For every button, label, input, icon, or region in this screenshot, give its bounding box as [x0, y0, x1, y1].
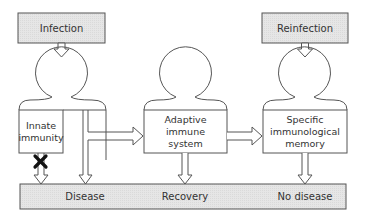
adaptive-figure — [144, 47, 227, 110]
reinfection-arrow-icon — [298, 43, 313, 57]
memory-label-line1: Specific — [287, 114, 324, 125]
memory-label-line3: memory — [285, 138, 325, 149]
specific-immunological-memory-box: Specific immunological memory — [263, 110, 347, 153]
adaptive-label-line2: immune — [166, 126, 205, 137]
outcome-bar: Disease Recovery No disease — [20, 184, 346, 209]
outcome-recovery: Recovery — [162, 191, 208, 202]
innate-label-line1: Innate — [26, 120, 56, 131]
immune-response-diagram: Infection Reinfection Innate immunity — [0, 0, 366, 217]
reinfection-box: Reinfection — [262, 13, 348, 43]
innate-label-line2: immunity — [18, 132, 64, 143]
outcome-disease: Disease — [65, 191, 104, 202]
outcome-no-disease: No disease — [278, 191, 333, 202]
arrow-to-recovery-icon — [178, 153, 192, 184]
memory-label-line2: immunological — [270, 126, 340, 137]
innate-immunity-box: Innate immunity — [18, 110, 64, 153]
reinfection-label: Reinfection — [277, 23, 333, 34]
arrow-to-memory-icon — [227, 127, 262, 145]
arrow-to-disease-icon — [79, 175, 92, 184]
infection-label: Infection — [40, 23, 84, 34]
arrow-to-adaptive-icon — [133, 127, 143, 145]
arrow-to-no-disease-icon — [298, 153, 312, 184]
infection-box: Infection — [18, 13, 105, 43]
adaptive-label-line1: Adaptive — [164, 114, 206, 125]
infection-arrow-icon — [54, 43, 69, 57]
adaptive-immune-system-box: Adaptive immune system — [144, 110, 227, 153]
innate-to-adaptive-connector — [63, 110, 133, 175]
adaptive-label-line3: system — [168, 138, 202, 149]
